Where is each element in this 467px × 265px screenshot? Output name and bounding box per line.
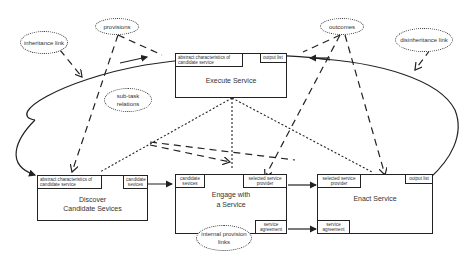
enact-service-box[interactable]: selected service provider output list En…	[317, 174, 433, 234]
engage-title-line2: a Service	[176, 200, 286, 209]
engage-agreement-port[interactable]: service agreement	[255, 220, 287, 234]
discover-title-line2: Candidate Sevices	[38, 204, 147, 213]
annotation-inheritance-link: inheritance link	[20, 31, 68, 54]
execute-abstract-port[interactable]: abstract characteristics of candidate se…	[175, 53, 243, 67]
annotation-internal-provision-links: internal provision links	[196, 225, 252, 251]
engage-title-line1: Engage with	[176, 190, 286, 199]
enact-output-port[interactable]: output list	[405, 174, 433, 184]
engage-candidates-port[interactable]: candidate sevices	[175, 174, 205, 188]
enact-service-title: Enact Service	[318, 194, 432, 203]
disinheritance-curve	[310, 58, 458, 178]
enact-selected-port[interactable]: selected service provider	[317, 174, 361, 188]
discover-candidates-port[interactable]: candidate sevices	[123, 175, 148, 189]
enact-agreement-port[interactable]: service agreement	[317, 220, 350, 234]
discover-abstract-port[interactable]: abstract characteristics of candidate se…	[37, 175, 102, 189]
inheritance-curve-left	[16, 120, 35, 175]
discover-title-line1: Discover	[38, 195, 147, 204]
annotation-disinheritance-link: disinheritance link	[395, 28, 453, 52]
execute-service-box[interactable]: abstract characteristics of candidate se…	[175, 53, 287, 98]
annotation-provisions: provisions	[95, 18, 139, 35]
execute-service-title: Execute Service	[176, 76, 286, 85]
execute-output-port[interactable]: output list	[260, 53, 287, 63]
annotation-outcomes: outcomes	[320, 18, 364, 35]
execute-inherit-arrow	[120, 57, 147, 63]
annotation-sub-task-relations: sub-task relations	[104, 88, 152, 112]
discover-service-box[interactable]: abstract characteristics of candidate se…	[37, 175, 148, 221]
engage-selected-port[interactable]: selected service provider	[243, 174, 287, 188]
